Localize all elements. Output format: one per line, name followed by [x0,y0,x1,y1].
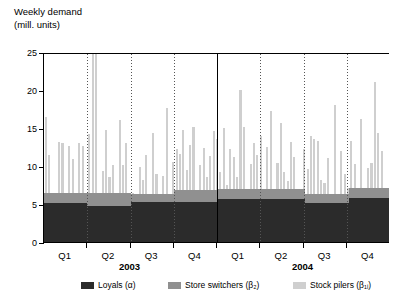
bar [293,157,295,242]
segment-store-switchers [48,193,50,203]
segment-store-switchers [300,189,302,200]
segment-store-switchers [176,190,178,201]
segment-store-switchers [209,190,211,201]
segment-stock-pilers [145,155,147,195]
bar [381,151,383,242]
segment-stock-pilers [280,123,282,188]
segment-stock-pilers [132,193,134,194]
segment-store-switchers [239,189,241,200]
segment-loyals [192,202,194,242]
legend-item: Loyals (α) [81,281,136,290]
bar [115,193,117,242]
x-axis-tick [173,243,174,248]
segment-store-switchers [139,194,141,202]
segment-store-switchers [307,194,309,203]
segment-store-switchers [233,189,235,200]
segment-store-switchers [102,193,104,205]
segment-store-switchers [310,194,312,203]
segment-store-switchers [213,190,215,201]
segment-loyals [223,199,225,242]
segment-store-switchers [270,189,272,200]
year-label: 2003 [119,261,140,272]
bar [176,149,178,242]
bar [219,172,221,242]
segment-store-switchers [256,189,258,200]
segment-stock-pilers [287,181,289,189]
segment-stock-pilers [270,111,272,189]
segment-store-switchers [45,193,47,203]
segment-loyals [68,203,70,242]
segment-store-switchers [65,193,67,203]
bar [75,193,77,242]
segment-stock-pilers [290,142,292,188]
legend-swatch-icon [293,282,306,289]
segment-store-switchers [186,190,188,201]
segment-stock-pilers [219,172,221,189]
bar [68,146,70,242]
bar [246,189,248,242]
segment-loyals [78,203,80,242]
segment-store-switchers [287,189,289,200]
bar [82,146,84,242]
bar [78,143,80,242]
quarter-separator [87,54,88,242]
segment-loyals [270,199,272,242]
legend-swatch-icon [168,282,181,289]
segment-stock-pilers [125,143,127,193]
segment-store-switchers [357,188,359,198]
segment-stock-pilers [189,145,191,191]
bar [169,194,171,242]
segment-stock-pilers [72,159,74,193]
segment-stock-pilers [374,82,376,188]
segment-stock-pilers [192,127,194,190]
bar [377,133,379,242]
x-axis-tick [86,243,87,248]
segment-loyals [169,202,171,242]
segment-loyals [377,198,379,242]
segment-store-switchers [115,193,117,205]
year-separator [217,54,218,242]
segment-store-switchers [223,189,225,200]
segment-stock-pilers [283,172,285,189]
segment-loyals [182,202,184,242]
segment-store-switchers [297,189,299,200]
segment-loyals [119,206,121,242]
segment-loyals [313,203,315,242]
bar [270,111,272,242]
x-axis-tick [130,243,131,248]
segment-loyals [115,206,117,242]
segment-loyals [112,206,114,242]
x-axis-tick [216,243,217,248]
bar [102,171,104,242]
segment-store-switchers [323,194,325,203]
segment-store-switchers [276,189,278,200]
segment-loyals [51,203,53,242]
segment-store-switchers [273,189,275,200]
segment-store-switchers [78,193,80,203]
segment-loyals [105,206,107,242]
segment-store-switchers [119,193,121,205]
bar [287,181,289,242]
bar [330,194,332,242]
segment-stock-pilers [82,146,84,193]
segment-loyals [280,199,282,242]
segment-loyals [354,198,356,242]
segment-loyals [213,202,215,242]
segment-stock-pilers [45,117,47,193]
bar [149,194,151,242]
segment-stock-pilers [344,174,346,195]
segment-loyals [219,199,221,242]
segment-store-switchers [350,188,352,198]
bar [162,176,164,242]
segment-store-switchers [162,194,164,202]
bar [108,177,110,242]
year-label: 2004 [292,261,313,272]
y-axis-tick-mark [39,129,44,130]
bar [98,193,100,242]
quarter-separator [260,54,261,242]
segment-loyals [283,199,285,242]
bar [236,177,238,242]
segment-loyals [95,206,97,242]
segment-loyals [256,199,258,242]
segment-loyals [293,199,295,242]
